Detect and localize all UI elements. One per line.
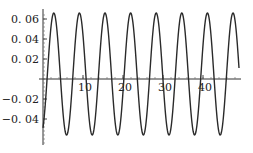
x-tick-label: 10 bbox=[78, 81, 92, 94]
y-tick-label: 0. 06 bbox=[11, 13, 39, 26]
x-tick-label: 30 bbox=[158, 81, 172, 94]
line-chart: 0. 060. 040. 02−0. 02−0. 04 10203040 bbox=[0, 0, 253, 153]
y-tick-label: 0. 02 bbox=[11, 53, 39, 66]
y-tick-label: 0. 04 bbox=[11, 33, 39, 46]
y-tick-label: −0. 04 bbox=[2, 113, 39, 126]
x-axis bbox=[39, 75, 241, 79]
y-tick-labels: 0. 060. 040. 02−0. 02−0. 04 bbox=[2, 13, 39, 126]
y-tick-label: −0. 02 bbox=[2, 93, 39, 106]
sine-curve bbox=[43, 13, 239, 135]
x-tick-label: 20 bbox=[118, 81, 132, 94]
